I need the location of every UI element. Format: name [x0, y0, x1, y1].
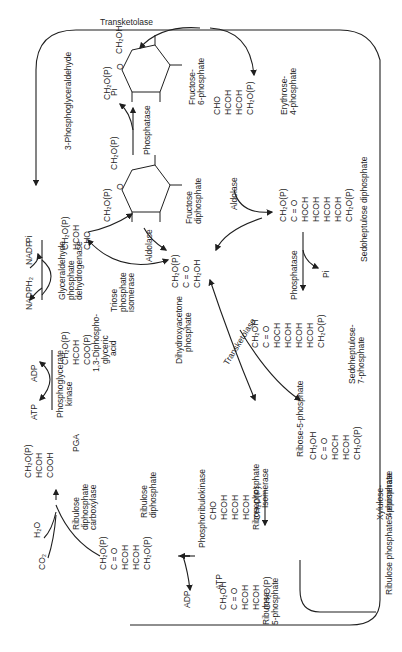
enzyme-phosphatase-top: Phosphatase [143, 105, 152, 155]
h2o: H₂O [33, 522, 42, 538]
compound-name-g3p: 3-Phosphoglyceraldehyde [64, 52, 73, 150]
formula-xu5p: CH₂OHC = OHOCHHCOHCH₂O(P) [308, 426, 363, 460]
enzyme-aldolase-2: Aldolase [230, 177, 239, 210]
f6p-ring-o: O [116, 63, 125, 70]
f6p-ring-ch2oh: CH₂OH [115, 26, 124, 54]
name-sdp: Sedoheptulose diphosphate [360, 157, 369, 262]
name-r5p: Ribose-5-phosphate [296, 380, 305, 457]
formula-ru5p: CH₂OHC = OHCOHHCOHCH₂O(P) [218, 576, 273, 610]
adp-prk: ADP [183, 591, 192, 608]
formula-s7p: CH₂OHC = OHOCHHCOHHCOHHCOHCH₂O(P) [250, 314, 327, 348]
formula-pga: CH₂O(P)HCOHCOOH [23, 444, 56, 478]
name-dhap: Dihydroxyacetonephosphate [175, 296, 192, 364]
name-pga: PGA [72, 434, 81, 452]
fdp-ring-ch2op-right: CH₂O(P) [110, 136, 119, 170]
nadph2: NADPH₂ [25, 277, 34, 310]
name-f6p: Fructose-6-phosphate [188, 58, 205, 105]
pi-sedo: Pi [322, 270, 331, 278]
fdp-ring-ch2op-left: CH₂O(P) [103, 188, 112, 222]
adp-kinase: ADP [30, 365, 39, 382]
enzyme-phosphoribulokinase: Phosphoribulokinase [198, 469, 207, 548]
nadp: NADP [25, 241, 34, 265]
co2: CO₂ [38, 554, 47, 570]
name-s7p: Sedoheptulose-7-phosphate [348, 324, 365, 384]
name-e4p: Erythrose-4-phosphate [280, 68, 297, 115]
formula-dhap: CH₂O(P)C = OCH₂OH [170, 254, 203, 288]
atp-kinase: ATP [30, 404, 39, 420]
enzyme-transketolase-top: Transketolase [100, 18, 153, 27]
enzyme-phosphatase-mid: Phosphatase [290, 250, 299, 300]
name-bpg: 1,3-Diphospho-glycericacid [92, 314, 118, 372]
formula-sdp: CH₂O(P)C = OHOCHHCOHHCOHHCOHCH₂O(P) [278, 188, 355, 222]
formula-r5p: CHOHCOHHCOHHCOHCH₂O(P) [208, 486, 263, 520]
name-xu5p: Xylulose-5-phosphate [376, 473, 393, 520]
pi-g3p: Pi [25, 235, 34, 243]
enzyme-triose-isomerase: Triosephosphateisomerase [110, 272, 136, 312]
formula-rudp: CH₂O(P)C = OHCOHHCOHCH₂O(P) [98, 536, 153, 570]
f6p-ring-ch2op: CH₂O(P) [103, 66, 112, 100]
transketolase-loop [36, 30, 380, 625]
formula-e4p: CHOHCOHHCOHCH₂O(P) [212, 81, 256, 115]
fdp-ring-o: O [116, 183, 125, 190]
enzyme-rubisco: Ribulosediphosphatecarboxylase [72, 484, 98, 530]
enzyme-aldolase-1: Aldolase [145, 229, 154, 262]
formula-bpg: CH₂O(P)HCOHCOO(P) [60, 331, 93, 365]
formula-g3p: CH₂O(P)HCOHCHO [60, 216, 93, 250]
name-rudp: Ribulosediphosphate [140, 472, 157, 518]
